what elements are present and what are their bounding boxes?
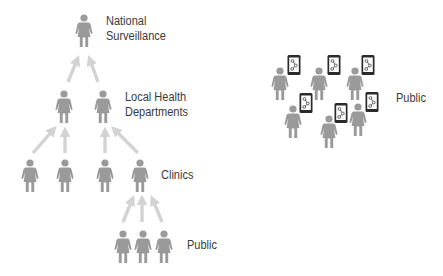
person-icon-crowd-4 [284,105,301,138]
person-icon-clinic-1 [21,159,38,192]
label-national: National Surveillance [106,14,166,44]
arrows-to-national [68,60,98,82]
person-icon-crowd-1 [271,67,288,100]
arrows-to-local [33,130,138,153]
label-national-line1: National [106,14,166,29]
person-icon-public-3 [155,230,172,263]
smartphone-share-icon [366,92,379,112]
label-local: Local Health Departments [125,90,188,120]
person-icon-national [75,14,92,47]
person-icon-local-2 [94,90,111,123]
person-icon-local-1 [55,90,72,123]
person-icon-crowd-2 [310,67,327,100]
crowd-group [271,55,378,148]
label-local-line2: Departments [125,105,188,120]
person-icon-crowd-6 [349,103,366,136]
smartphone-share-icon [300,93,313,113]
person-icon-clinic-2 [56,159,73,192]
diagram-canvas [0,0,443,276]
person-icon-clinic-3 [96,159,113,192]
label-local-line1: Local Health [125,90,188,105]
smartphone-share-icon [362,55,375,75]
person-icon-crowd-3 [346,67,363,100]
person-icon-public-2 [134,230,151,263]
label-public: Public [187,238,217,253]
person-icon-public-1 [114,230,131,263]
smartphone-share-icon [335,103,348,123]
label-national-line2: Surveillance [106,29,166,44]
arrows-to-clinic [123,200,162,222]
label-crowd-public: Public [396,91,426,106]
smartphone-share-icon [288,55,301,75]
label-clinics: Clinics [161,168,193,183]
smartphone-share-icon [328,55,341,75]
person-icon-clinic-4 [131,159,148,192]
